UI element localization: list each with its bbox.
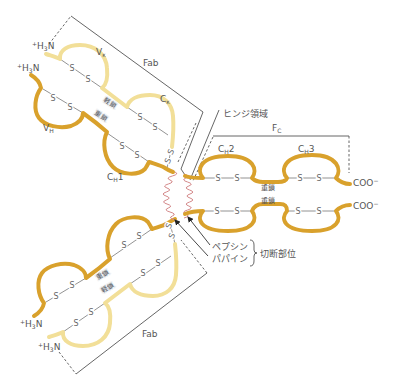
cl-domain-label: Cκ xyxy=(160,94,170,105)
disulfide-s-label: S xyxy=(155,259,160,268)
upper-light-n-terminus-label: +H3N xyxy=(32,40,54,52)
diagram-canvas: S S S S S S S S S S S S S S S S S S S S … xyxy=(0,0,395,390)
vl-domain-label: Vκ xyxy=(96,47,106,58)
cleavage-brace xyxy=(250,240,257,266)
disulfide-s-label: S xyxy=(215,174,220,183)
disulfide-s-label: S xyxy=(137,113,142,122)
disulfide-s-label: S xyxy=(53,292,58,301)
disulfide-s-label: S xyxy=(234,207,239,216)
disulfide-s-label: S xyxy=(119,142,124,151)
disulfide-s-label: S xyxy=(297,174,302,183)
disulfide-s-label: S xyxy=(50,94,55,103)
disulfide-s-label: S xyxy=(234,174,239,183)
antibody-structure-diagram: S S S S S S S S S S S S S S S S S S S S … xyxy=(0,0,395,390)
disulfide-s-label: S xyxy=(316,174,321,183)
disulfide-s-label: S xyxy=(152,123,157,132)
disulfide-s-label: S xyxy=(69,64,74,73)
lower-fab-arm xyxy=(34,217,176,346)
disulfide-s-label: S xyxy=(121,241,126,250)
hinge-wiggle-left xyxy=(163,172,177,220)
hinge-region-label: ヒンジ領域 xyxy=(223,108,268,119)
fab-bracket-lower xyxy=(59,240,207,374)
hinge-leader-line xyxy=(190,110,219,180)
fab-label-upper: Fab xyxy=(143,58,159,68)
disulfide-s-label: S xyxy=(85,75,90,84)
pepsin-label: ペプシン xyxy=(212,242,248,252)
fc-heavy-chain-label-upper: 重鎖 xyxy=(261,183,275,192)
fc-heavy-chain-upper xyxy=(185,155,350,184)
disulfide-s-label: S xyxy=(136,232,141,241)
disulfide-labels: S S S S S S S S S S S S S S S S S S S S … xyxy=(50,64,321,328)
fc-label: FC xyxy=(272,123,281,134)
disulfide-s-label: S xyxy=(295,207,300,216)
fab-bracket-upper xyxy=(49,16,203,178)
disulfide-s-label: S xyxy=(316,207,321,216)
disulfide-s-label: S xyxy=(67,103,72,112)
light-chain-label-lower: 軽鎖 xyxy=(99,280,116,295)
papain-label: パパイン xyxy=(212,254,248,264)
fab-label-lower: Fab xyxy=(142,329,158,339)
ch2-domain-label: CH2 xyxy=(218,144,235,155)
disulfide-s-label: S xyxy=(166,148,176,156)
cleavage-site-label: 切断部位 xyxy=(260,248,296,259)
disulfide-s-label: S xyxy=(214,207,219,216)
lower-light-n-terminus-label: +H3N xyxy=(38,341,60,353)
c-terminus-label-upper: COO− xyxy=(353,177,378,188)
disulfide-s-label: S xyxy=(140,269,145,278)
fc-heavy-chain-lower xyxy=(185,204,350,231)
fc-region xyxy=(185,155,350,231)
upper-heavy-n-terminus-label: +H3N xyxy=(17,62,39,74)
ch1-domain-label: CH1 xyxy=(107,172,124,183)
disulfide-s-label: S xyxy=(88,308,93,317)
disulfide-s-label: S xyxy=(163,157,173,165)
ch3-domain-label: CH3 xyxy=(298,144,315,155)
c-terminus-label-lower: COO− xyxy=(353,200,378,211)
disulfide-s-label: S xyxy=(134,151,139,160)
lower-heavy-n-terminus-label: +H3N xyxy=(20,318,42,330)
fc-heavy-chain-label-lower: 重鎖 xyxy=(261,196,275,205)
disulfide-s-label: S xyxy=(69,281,74,290)
disulfide-s-label: S xyxy=(73,319,78,328)
